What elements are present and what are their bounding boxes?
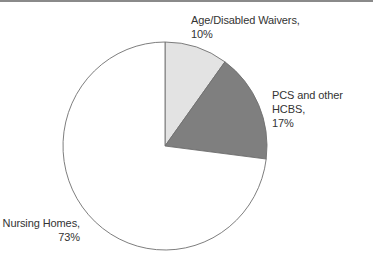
pie-slices xyxy=(63,42,267,250)
slice-label-value: 73% xyxy=(0,230,80,244)
slice-label-value: 17% xyxy=(272,116,373,130)
slice-label-age-disabled-waivers: Age/Disabled Waivers, 10% xyxy=(191,13,300,41)
slice-label-nursing-homes: Nursing Homes, 73% xyxy=(0,216,80,244)
slice-label-pcs-other-hcbs: PCS and other HCBS, 17% xyxy=(272,88,373,130)
slice-label-value: 10% xyxy=(191,27,300,41)
slice-label-name: Age/Disabled Waivers, xyxy=(191,13,300,27)
slice-label-name: PCS and other HCBS, xyxy=(272,88,373,116)
slice-label-name: Nursing Homes, xyxy=(0,216,80,230)
